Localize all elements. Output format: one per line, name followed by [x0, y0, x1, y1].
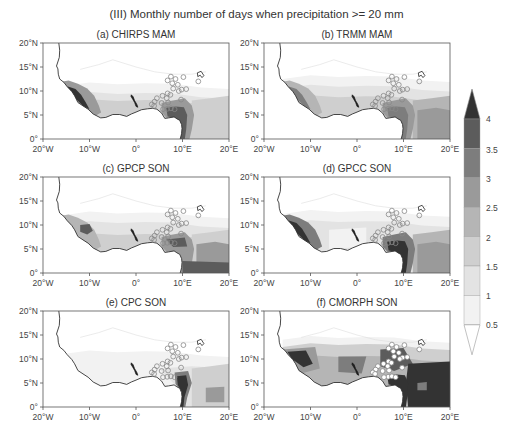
- x-tick-label: 20°E: [441, 412, 460, 422]
- colorbar: 4 3.5 3 2.5 2 1.5 1 0.5: [464, 89, 498, 355]
- colorbar-segment: [464, 295, 480, 324]
- y-tick-label: 20°N: [240, 172, 259, 182]
- y-tick-label: 5°N: [245, 110, 259, 120]
- colorbar-label: 0.5: [486, 320, 498, 330]
- y-tick-label: 10°N: [240, 86, 259, 96]
- panel-e: (e) CPC SON 20°W10°W0°10°E20°E0°5°N10°N1…: [19, 297, 239, 422]
- y-tick-label: 20°N: [240, 38, 259, 48]
- y-tick-label: 15°N: [19, 330, 38, 340]
- y-tick-label: 0°: [251, 402, 259, 412]
- x-tick-label: 10°W: [300, 278, 321, 288]
- x-tick-label: 20°E: [441, 144, 460, 154]
- x-tick-label: 10°E: [173, 412, 192, 422]
- colorbar-label: 3.5: [486, 145, 498, 155]
- x-tick-label: 10°W: [79, 144, 100, 154]
- x-tick-label: 20°W: [33, 144, 54, 154]
- colorbar-segment: [464, 237, 480, 266]
- x-tick-label: 10°W: [79, 278, 100, 288]
- map-area: [43, 311, 229, 407]
- x-tick-label: 0°: [353, 412, 361, 422]
- x-tick-label: 10°E: [173, 144, 192, 154]
- x-tick-label: 20°W: [254, 144, 275, 154]
- x-tick-label: 0°: [132, 278, 140, 288]
- y-tick-label: 5°N: [24, 110, 38, 120]
- x-tick-label: 10°W: [300, 412, 321, 422]
- x-tick-label: 20°E: [441, 278, 460, 288]
- y-tick-label: 20°N: [19, 306, 38, 316]
- map-area: [43, 43, 229, 139]
- map-area: [264, 177, 450, 273]
- x-tick-label: 10°E: [394, 278, 413, 288]
- panel-c: (c) GPCP SON 20°W10°W0°10°E20°E0°5°N10°N…: [19, 163, 239, 288]
- panel-title: (c) GPCP SON: [102, 163, 169, 174]
- x-tick-label: 10°E: [394, 412, 413, 422]
- y-tick-label: 5°N: [245, 378, 259, 388]
- colorbar-label: 1: [486, 291, 491, 301]
- y-tick-label: 15°N: [240, 196, 259, 206]
- x-tick-label: 10°W: [300, 144, 321, 154]
- colorbar-segment: [464, 207, 480, 236]
- colorbar-label: 2: [486, 233, 491, 243]
- y-tick-label: 0°: [30, 402, 38, 412]
- colorbar-label: 3: [486, 174, 491, 184]
- x-tick-label: 20°W: [33, 412, 54, 422]
- y-tick-label: 15°N: [19, 62, 38, 72]
- x-tick-label: 20°W: [254, 412, 275, 422]
- x-tick-label: 20°E: [220, 144, 239, 154]
- x-tick-label: 0°: [132, 144, 140, 154]
- y-tick-label: 20°N: [19, 38, 38, 48]
- colorbar-segment: [464, 266, 480, 295]
- panel-title: (a) CHIRPS MAM: [97, 29, 176, 40]
- y-tick-label: 10°N: [19, 220, 38, 230]
- figure-canvas: (a) CHIRPS MAM 20°W10°W0°10°E20°E0°5°N10…: [0, 0, 513, 439]
- y-tick-label: 15°N: [19, 196, 38, 206]
- x-tick-label: 10°W: [79, 412, 100, 422]
- y-tick-label: 0°: [251, 134, 259, 144]
- x-tick-label: 0°: [132, 412, 140, 422]
- panel-title: (b) TRMM MAM: [322, 29, 393, 40]
- x-tick-label: 20°W: [254, 278, 275, 288]
- y-tick-label: 15°N: [240, 330, 259, 340]
- y-tick-label: 20°N: [240, 306, 259, 316]
- y-tick-label: 5°N: [24, 244, 38, 254]
- y-tick-label: 0°: [251, 268, 259, 278]
- panel-b: (b) TRMM MAM 20°W10°W0°10°E20°E0°5°N10°N…: [240, 29, 460, 154]
- panel-title: (e) CPC SON: [106, 297, 167, 308]
- x-tick-label: 20°E: [220, 412, 239, 422]
- colorbar-label: 4: [486, 114, 491, 124]
- map-area: [43, 177, 229, 273]
- colorbar-extend-max: [464, 89, 480, 119]
- y-tick-label: 10°N: [19, 354, 38, 364]
- colorbar-segment: [464, 178, 480, 207]
- y-tick-label: 0°: [30, 134, 38, 144]
- y-tick-label: 10°N: [240, 354, 259, 364]
- x-tick-label: 20°W: [33, 278, 54, 288]
- y-tick-label: 15°N: [240, 62, 259, 72]
- panel-f: (f) CMORPH SON 20°W10°W0°10°E20°E0°5°N10…: [240, 297, 460, 422]
- colorbar-label: 1.5: [486, 262, 498, 272]
- x-tick-label: 20°E: [220, 278, 239, 288]
- x-tick-label: 10°E: [173, 278, 192, 288]
- map-area: [264, 311, 450, 407]
- panel-title: (f) CMORPH SON: [316, 297, 397, 308]
- y-tick-label: 0°: [30, 268, 38, 278]
- colorbar-extend-min: [464, 325, 480, 355]
- y-tick-label: 10°N: [19, 86, 38, 96]
- panel-a: (a) CHIRPS MAM 20°W10°W0°10°E20°E0°5°N10…: [19, 29, 239, 154]
- x-tick-label: 10°E: [394, 144, 413, 154]
- colorbar-segment: [464, 119, 480, 148]
- y-tick-label: 20°N: [19, 172, 38, 182]
- y-tick-label: 5°N: [24, 378, 38, 388]
- colorbar-segment: [464, 148, 480, 177]
- y-tick-label: 10°N: [240, 220, 259, 230]
- x-tick-label: 0°: [353, 144, 361, 154]
- x-tick-label: 0°: [353, 278, 361, 288]
- y-tick-label: 5°N: [245, 244, 259, 254]
- map-area: [264, 43, 450, 139]
- panel-d: (d) GPCC SON 20°W10°W0°10°E20°E0°5°N10°N…: [240, 163, 460, 288]
- panel-title: (d) GPCC SON: [323, 163, 391, 174]
- colorbar-label: 2.5: [486, 203, 498, 213]
